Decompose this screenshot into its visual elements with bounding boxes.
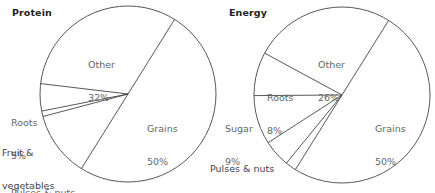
label-other: Other 26% [318,37,345,125]
label-other: Other 32% [88,37,115,125]
label-grains: Grains 50% [147,101,178,189]
chart-title: Protein [12,7,52,18]
label-fruit-vegetables: Fruit & vegetables 2% [212,170,299,193]
protein-pie-chart: Protein Other 32% Grains 50% Roots 5% Fr… [0,0,220,193]
label-pulses-nuts: Pulses & nuts 12% [11,165,75,193]
chart-title: Energy [229,7,267,18]
energy-pie-chart: Energy Other 26% Roots 8% Grains 50% Sug… [215,0,435,193]
label-grains: Grains 50% [375,101,406,189]
